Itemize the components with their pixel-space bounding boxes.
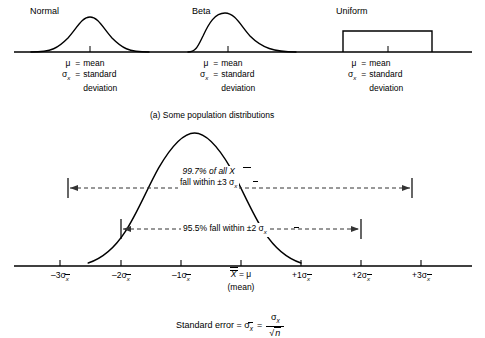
axis-label-mean-overbar-2: [230, 267, 238, 268]
arrow-955-left-head: [123, 226, 131, 232]
legend-sigma-text-1: standard: [221, 69, 255, 83]
axis-label-plus2: +2σx: [341, 270, 381, 282]
annotation-997-sigma-sub-overline: [253, 181, 258, 182]
axis-label-minus1: –1σx: [161, 270, 201, 282]
axis-label-plus2-overbar: [367, 274, 372, 275]
panel-a-caption: (a) Some population distributions: [150, 110, 274, 120]
axis-label-minus1-overbar: [186, 274, 191, 275]
figure-root: Normal Beta Uniform μ = mean σx = standa…: [0, 0, 485, 338]
legend-sigma-text-1: standard: [83, 69, 117, 83]
annotation-955: 95.5% fall within ±2 σx: [181, 223, 269, 237]
annotation-997-xbar-overline: [243, 167, 251, 168]
sampling-distribution-curve: [88, 133, 301, 263]
formula-equals: =: [253, 320, 266, 330]
arrow-997-right-head: [402, 185, 410, 191]
axis-label-minus2: –2σx: [101, 270, 141, 282]
legend-mu-equals: =: [72, 58, 83, 69]
legend-sigma-equals: =: [358, 69, 369, 83]
legend-mu-symbol: μ: [348, 58, 358, 69]
annotation-997: 99.7% of all X fall within ±3 σx: [178, 166, 239, 191]
axis-label-plus3: +3σx: [401, 270, 441, 282]
legend-mu-text: mean: [83, 58, 117, 69]
legend-sigma-text-2: deviation: [369, 83, 403, 94]
distribution-label-normal: Normal: [30, 6, 59, 17]
legend-uniform: μ = mean σx = standard deviation: [348, 58, 403, 93]
legend-sigma-text-1: standard: [369, 69, 403, 83]
formula-numerator: σx: [266, 312, 284, 326]
axis-label-plus1-overbar: [307, 274, 312, 275]
axis-label-mean-sub: (mean): [216, 282, 266, 292]
legend-sigma-equals: =: [72, 69, 83, 83]
formula-prefix: Standard error = σx: [176, 320, 253, 332]
annotation-955-sigma-sub-overline: [294, 227, 299, 228]
axis-label-mean-overbar-1: [230, 270, 238, 271]
annotation-997-line1: 99.7% of all X: [180, 166, 237, 177]
legend-mu-equals: =: [210, 58, 221, 69]
legend-mu-text: mean: [221, 58, 255, 69]
legend-sigma-text-2: deviation: [83, 83, 117, 94]
axis-label-minus2-overbar: [126, 274, 131, 275]
axis-label-plus3-overbar: [427, 274, 432, 275]
legend-mu-text: mean: [369, 58, 403, 69]
distribution-label-beta: Beta: [192, 6, 211, 17]
axis-label-plus1: +1σx: [281, 270, 321, 282]
arrow-955-right-head: [351, 226, 359, 232]
annotation-997-line2: fall within ±3 σx: [180, 177, 237, 191]
arrow-997-left-head: [70, 185, 78, 191]
legend-mu-symbol: μ: [62, 58, 72, 69]
standard-error-formula: Standard error = σx = σx √n: [176, 312, 284, 338]
legend-sigma-text-2: deviation: [221, 83, 255, 94]
legend-beta: μ = mean σx = standard deviation: [200, 58, 255, 93]
beta-distribution-curve: [188, 13, 296, 52]
legend-mu-symbol: μ: [200, 58, 210, 69]
legend-sigma-symbol: σx: [348, 69, 358, 83]
legend-normal: μ = mean σx = standard deviation: [62, 58, 117, 93]
formula-fraction: σx √n: [266, 312, 284, 338]
axis-label-minus3-overbar: [65, 274, 70, 275]
axis-label-minus3: –3σx: [40, 270, 80, 282]
formula-denominator: √n: [266, 326, 284, 338]
legend-mu-equals: =: [358, 58, 369, 69]
legend-sigma-symbol: σx: [200, 69, 210, 83]
distribution-label-uniform: Uniform: [336, 6, 368, 17]
legend-sigma-equals: =: [210, 69, 221, 83]
legend-sigma-symbol: σx: [62, 69, 72, 83]
axis-label-mean: X = μ: [216, 269, 266, 279]
